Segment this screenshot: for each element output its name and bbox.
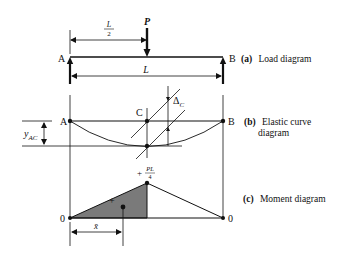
moment-peak-denominator: 4 [149, 174, 152, 180]
elastic-curve [70, 121, 223, 147]
moment-area-sign: + [109, 195, 115, 206]
delta-c-arrow-bottom-icon [166, 127, 170, 131]
load-label: P [144, 16, 151, 27]
support-label-b: B [229, 53, 236, 64]
load-arrowhead-icon [144, 49, 151, 57]
load-diagram-caption: (a) Load diagram [241, 54, 312, 65]
delta-c-label: ΔC [173, 95, 184, 109]
elastic-curve-caption-line2: diagram [258, 128, 290, 138]
reaction-arrowhead-b-icon [220, 57, 226, 64]
xbar-label: x̄ [93, 221, 99, 231]
moment-right-value: 0 [228, 213, 233, 224]
beam-analysis-figure: L 2 P A B L (a) Load diagram [0, 0, 341, 254]
point-b [221, 119, 225, 123]
point-a [68, 119, 72, 123]
moment-left-end [68, 216, 72, 220]
moment-diagram-caption: (c) Moment diagram [243, 194, 326, 205]
delta-c-arrow-top-icon [166, 97, 170, 101]
delta-subscript: C [179, 101, 184, 109]
point-c [145, 119, 149, 123]
elastic-curve-caption-tag: (b) [244, 117, 256, 128]
load-diagram-caption-tag: (a) [241, 54, 252, 65]
point-label-c: C [136, 107, 143, 118]
half-span-numerator: L [106, 20, 112, 29]
moment-diagram: + PL 4 + 0 0 x̄ (c) Moment diagram [60, 165, 326, 246]
support-label-a: A [58, 53, 66, 64]
elastic-curve-caption: (b) Elastic curve [244, 117, 311, 128]
reaction-arrowhead-a-icon [67, 57, 73, 64]
moment-diagram-right [147, 183, 223, 218]
moment-peak-sign: + [137, 168, 142, 178]
moment-left-value: 0 [60, 213, 65, 224]
span-label: L [142, 64, 149, 75]
moment-right-end [221, 216, 225, 220]
half-span-denominator: 2 [107, 30, 111, 38]
moment-peak-point [145, 181, 149, 185]
moment-diagram-caption-tag: (c) [243, 194, 254, 205]
load-diagram-caption-text: Load diagram [258, 54, 312, 64]
load-diagram: L 2 P A B L (a) Load diagram [58, 16, 312, 84]
yac-label: yAC [23, 128, 38, 142]
moment-peak-numerator: PL [145, 165, 154, 172]
point-c-deflected [145, 144, 149, 148]
point-label-b: B [228, 116, 235, 127]
moment-diagram-caption-text: Moment diagram [260, 194, 326, 204]
tangent-line-lower [136, 110, 185, 159]
point-label-a: A [60, 116, 68, 127]
elastic-curve-caption-line1: Elastic curve [262, 117, 311, 127]
yac-subscript: AC [27, 134, 37, 142]
